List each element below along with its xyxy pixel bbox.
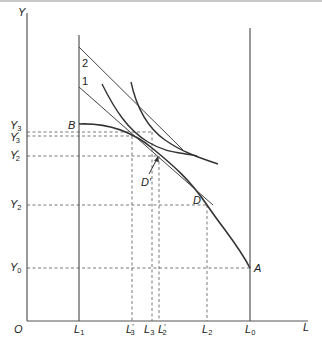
production-diagram: Y L O 2 1 B A D D′ Y3 Y′3 Y′2 Y2 Y0 L1 L…: [0, 0, 322, 347]
point-b-label: B: [68, 119, 75, 131]
l2-label: L2: [202, 323, 212, 337]
y2-prime-label: Y′2: [10, 148, 20, 163]
horizontal-guides: [27, 132, 250, 268]
l3-prime-label: L′3: [126, 322, 135, 337]
l1-label: L1: [74, 323, 84, 337]
production-frontier-curve: [79, 124, 250, 268]
point-d-label: D: [193, 194, 201, 206]
vertical-guides: [132, 132, 207, 321]
origin-label: O: [14, 323, 23, 335]
y-tick-labels: Y3 Y′3 Y′2 Y2 Y0: [10, 119, 22, 275]
l2-prime-label: L′2: [158, 322, 167, 337]
y0-label: Y0: [10, 261, 22, 275]
l0-label: L0: [245, 323, 255, 337]
x-tick-labels: L1 L′3 L3 L′2 L2 L0: [74, 322, 255, 337]
y-axis-label: Y: [18, 6, 26, 18]
y2-label: Y2: [10, 198, 22, 212]
y3-prime-label: Y′3: [10, 130, 20, 145]
line-1-label: 1: [82, 75, 88, 87]
point-d-prime-label: D′: [141, 176, 152, 188]
point-a-label: A: [253, 262, 261, 274]
x-axis-label: L: [303, 321, 309, 333]
l3-label: L3: [144, 323, 154, 337]
line-2-label: 2: [82, 57, 88, 69]
